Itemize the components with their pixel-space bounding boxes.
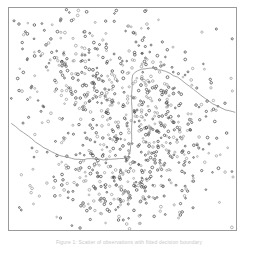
scatter-point bbox=[128, 128, 130, 130]
scatter-point bbox=[48, 62, 50, 64]
scatter-point bbox=[66, 58, 68, 60]
scatter-point bbox=[22, 122, 24, 124]
scatter-point bbox=[178, 91, 180, 93]
scatter-point bbox=[117, 121, 120, 124]
scatter-point bbox=[154, 198, 156, 200]
scatter-point bbox=[138, 104, 141, 107]
scatter-point bbox=[10, 98, 12, 100]
scatter-point bbox=[121, 70, 124, 73]
scatter-point bbox=[99, 95, 101, 97]
scatter-point bbox=[105, 187, 107, 189]
scatter-point bbox=[160, 61, 162, 63]
scatter-point bbox=[61, 142, 63, 144]
scatter-point bbox=[75, 154, 77, 156]
scatter-point bbox=[196, 144, 198, 146]
scatter-point bbox=[97, 102, 99, 104]
scatter-point bbox=[124, 190, 126, 192]
scatter-point bbox=[72, 198, 74, 200]
scatter-point bbox=[36, 91, 38, 93]
scatter-point bbox=[143, 37, 145, 39]
scatter-point bbox=[99, 180, 102, 183]
scatter-point bbox=[84, 102, 87, 105]
scatter-point bbox=[26, 32, 29, 35]
scatter-point bbox=[112, 139, 114, 141]
scatter-point bbox=[189, 129, 191, 131]
scatter-point bbox=[125, 30, 127, 32]
scatter-point bbox=[88, 59, 90, 61]
scatter-point bbox=[114, 154, 116, 156]
scatter-point bbox=[16, 77, 19, 80]
scatter-point bbox=[113, 20, 115, 22]
scatter-point bbox=[120, 169, 122, 171]
scatter-point bbox=[64, 137, 66, 139]
scatter-point bbox=[168, 179, 170, 181]
scatter-point bbox=[148, 142, 150, 144]
scatter-point bbox=[225, 132, 227, 134]
scatter-point bbox=[75, 53, 78, 56]
scatter-point bbox=[92, 169, 94, 171]
scatter-point bbox=[183, 195, 186, 198]
scatter-point bbox=[27, 22, 29, 24]
scatter-point bbox=[178, 162, 180, 164]
scatter-point bbox=[176, 156, 178, 158]
scatter-point bbox=[187, 113, 189, 115]
scatter-point bbox=[170, 104, 173, 107]
scatter-point bbox=[100, 109, 102, 111]
scatter-point bbox=[197, 156, 199, 158]
scatter-point bbox=[184, 172, 186, 174]
scatter-point bbox=[127, 150, 129, 152]
scatter-point bbox=[103, 171, 105, 173]
scatter-point bbox=[65, 167, 67, 169]
scatter-point bbox=[188, 161, 190, 163]
scatter-point bbox=[88, 68, 91, 71]
scatter-point bbox=[208, 143, 210, 145]
scatter-point bbox=[64, 31, 67, 34]
scatter-point bbox=[203, 68, 205, 70]
scatter-point bbox=[149, 171, 152, 174]
scatter-point bbox=[92, 118, 94, 120]
scatter-point bbox=[62, 118, 64, 120]
scatter-point bbox=[60, 37, 62, 39]
scatter-point bbox=[230, 226, 233, 229]
scatter-point bbox=[84, 73, 86, 75]
scatter-point bbox=[41, 53, 43, 55]
scatter-point bbox=[89, 218, 91, 220]
scatter-point bbox=[106, 60, 108, 62]
scatter-point bbox=[115, 137, 117, 139]
scatter-point bbox=[147, 134, 149, 136]
scatter-point bbox=[81, 46, 83, 48]
figure-container: Figure 1: Scatter of observations with f… bbox=[0, 0, 258, 253]
scatter-point bbox=[110, 59, 112, 61]
scatter-point bbox=[69, 12, 71, 14]
scatter-point bbox=[135, 41, 137, 43]
scatter-point bbox=[230, 77, 232, 79]
scatter-point bbox=[147, 79, 149, 81]
scatter-point bbox=[46, 182, 49, 185]
scatter-point bbox=[27, 58, 29, 60]
scatter-point bbox=[56, 30, 59, 33]
scatter-point bbox=[212, 108, 214, 110]
scatter-point bbox=[108, 98, 111, 101]
scatter-point bbox=[136, 109, 138, 111]
scatter-point bbox=[184, 185, 186, 187]
scatter-point bbox=[118, 57, 121, 60]
scatter-point bbox=[127, 25, 129, 27]
scatter-point bbox=[203, 63, 205, 65]
scatter-point bbox=[66, 182, 68, 184]
scatter-point bbox=[53, 56, 55, 58]
scatter-point bbox=[152, 129, 154, 131]
scatter-point bbox=[141, 103, 143, 105]
scatter-point bbox=[142, 138, 144, 140]
scatter-point bbox=[46, 151, 48, 153]
scatter-point bbox=[133, 59, 135, 61]
scatter-point bbox=[122, 174, 124, 176]
scatter-point bbox=[215, 155, 217, 157]
scatter-point bbox=[146, 23, 149, 26]
scatter-point bbox=[101, 115, 103, 117]
scatter-point bbox=[104, 88, 106, 90]
scatter-point bbox=[78, 107, 80, 109]
scatter-point bbox=[119, 198, 121, 200]
scatter-point bbox=[152, 197, 154, 199]
scatter-point bbox=[95, 76, 97, 78]
scatter-point bbox=[231, 171, 233, 173]
